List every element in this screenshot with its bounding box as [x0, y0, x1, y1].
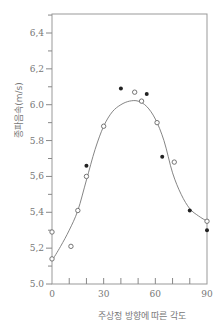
y-tick-label: 6.0 — [30, 100, 45, 110]
data-points — [50, 87, 209, 262]
y-axis-title: 종파음속(m/s) — [14, 82, 24, 138]
y-tick-label: 5,6 — [30, 171, 45, 181]
x-tick-label: 30 — [98, 289, 110, 299]
open-data-point — [76, 208, 80, 212]
plot-frame — [52, 14, 207, 284]
y-tick-label: 5.8 — [30, 136, 45, 146]
open-data-point — [139, 99, 143, 103]
y-axis-ticks: 5.05,25,45,65.86.06,26,4 — [30, 15, 52, 289]
open-data-point — [205, 219, 209, 223]
x-tick-label: 60 — [150, 289, 162, 299]
open-data-point — [132, 90, 136, 94]
filled-data-point — [119, 87, 123, 91]
open-data-point — [84, 174, 88, 178]
fitted-curve — [52, 101, 207, 261]
x-axis-ticks: 0306090 — [49, 278, 213, 299]
open-data-point — [155, 120, 159, 124]
open-data-point — [50, 230, 54, 234]
x-axis-title: 주상정 방향에 따른 각도 — [98, 310, 187, 321]
y-tick-label: 5.0 — [30, 279, 45, 289]
open-data-point — [69, 244, 73, 248]
filled-data-point — [84, 164, 88, 168]
open-data-point — [172, 160, 176, 164]
filled-data-point — [160, 155, 164, 159]
filled-data-point — [145, 92, 149, 96]
y-tick-label: 5,2 — [30, 243, 44, 253]
chart: 5.05,25,45,65.86.06,26,4 0306090 종파음속(m/… — [0, 0, 224, 334]
filled-data-point — [205, 228, 209, 232]
y-tick-label: 6,2 — [30, 64, 44, 74]
y-tick-label: 6,4 — [30, 28, 45, 38]
filled-data-point — [188, 208, 192, 212]
x-tick-label: 0 — [49, 289, 55, 299]
x-tick-label: 90 — [201, 289, 213, 299]
open-data-point — [101, 124, 105, 128]
open-data-point — [50, 257, 54, 261]
y-tick-label: 5,4 — [30, 207, 45, 217]
